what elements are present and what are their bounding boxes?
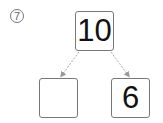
- part-right-box: 6: [111, 78, 150, 118]
- arrow-right: [111, 52, 128, 75]
- part-left-input-box[interactable]: [39, 78, 78, 118]
- arrow-left: [62, 52, 79, 75]
- whole-box: 10: [75, 11, 114, 51]
